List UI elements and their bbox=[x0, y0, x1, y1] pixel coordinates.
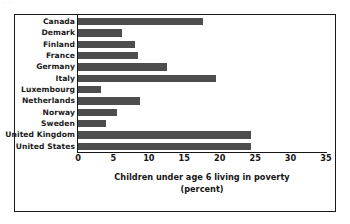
x-tick-label: 35 bbox=[320, 153, 331, 163]
category-label: Netherlands bbox=[0, 95, 78, 106]
x-axis-title-line2: (percent) bbox=[78, 184, 326, 196]
bar bbox=[78, 29, 122, 36]
x-axis-title: Children under age 6 living in poverty (… bbox=[78, 172, 326, 195]
bar bbox=[78, 131, 251, 138]
x-tick-label: 10 bbox=[143, 153, 154, 163]
scan-artifact-text: · ·· bbox=[3, 0, 14, 7]
x-tick-label: 30 bbox=[285, 153, 296, 163]
bar bbox=[78, 52, 138, 59]
bar bbox=[78, 41, 135, 48]
category-label-column: CanadaDemarkFinlandFranceGermanyItalyLux… bbox=[0, 16, 78, 152]
x-tick-label: 15 bbox=[179, 153, 190, 163]
x-axis-tick-labels: 05101520253035 bbox=[77, 153, 327, 169]
bar bbox=[78, 109, 117, 116]
category-label: Germany bbox=[0, 61, 78, 72]
category-label: Canada bbox=[0, 16, 78, 27]
bar-row bbox=[78, 95, 251, 106]
category-label: United Kingdom bbox=[0, 129, 78, 140]
bar-row bbox=[78, 141, 251, 152]
bar bbox=[78, 120, 106, 127]
y-axis-line bbox=[77, 14, 78, 153]
bar bbox=[78, 143, 251, 150]
bar-row bbox=[78, 107, 251, 118]
bar-row bbox=[78, 129, 251, 140]
category-label: Luxembourg bbox=[0, 84, 78, 95]
category-label: Finland bbox=[0, 39, 78, 50]
bar-row bbox=[78, 39, 251, 50]
bar bbox=[78, 75, 216, 82]
x-tick-label: 5 bbox=[111, 153, 117, 163]
bar bbox=[78, 63, 167, 70]
bar bbox=[78, 18, 203, 25]
chart-page: · ·· CanadaDemarkFinlandFranceGermanyIta… bbox=[0, 0, 350, 224]
bar-row bbox=[78, 27, 251, 38]
category-label: Demark bbox=[0, 27, 78, 38]
category-label: France bbox=[0, 50, 78, 61]
bar bbox=[78, 86, 101, 93]
category-label: Sweden bbox=[0, 118, 78, 129]
bar-row bbox=[78, 61, 251, 72]
category-label: United States bbox=[0, 141, 78, 152]
bar-row bbox=[78, 118, 251, 129]
x-axis-title-line1: Children under age 6 living in poverty bbox=[114, 172, 289, 182]
bar-series bbox=[78, 16, 251, 152]
bar-row bbox=[78, 16, 251, 27]
x-tick-label: 20 bbox=[214, 153, 225, 163]
bar-row bbox=[78, 50, 251, 61]
bar bbox=[78, 97, 140, 104]
bar-row bbox=[78, 84, 251, 95]
bar-row bbox=[78, 73, 251, 84]
category-label: Italy bbox=[0, 73, 78, 84]
x-tick-label: 25 bbox=[249, 153, 260, 163]
category-label: Norway bbox=[0, 107, 78, 118]
x-tick-label: 0 bbox=[75, 153, 81, 163]
